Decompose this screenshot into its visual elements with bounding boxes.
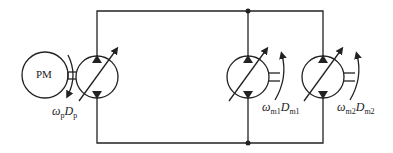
pump-rotation-arrow <box>68 55 73 95</box>
motor1-label: ωm1Dm1 <box>262 100 300 116</box>
junction-top <box>246 9 251 14</box>
pump-label: ωpDp <box>52 104 77 120</box>
junction-bottom <box>246 141 251 146</box>
motor2-label: ωm2Dm2 <box>337 100 375 116</box>
top-line <box>97 11 323 56</box>
motor1-speed-sub: m1 <box>270 107 280 116</box>
pump-disp-symbol: D <box>64 104 73 118</box>
prime-mover-label: PM <box>36 68 52 80</box>
circuit-diagram <box>0 0 393 153</box>
pump-disp-sub: p <box>73 111 77 120</box>
motor1-disp-sub: m1 <box>289 107 299 116</box>
motor2-speed-sub: m2 <box>345 107 355 116</box>
motor2-disp-sub: m2 <box>364 107 374 116</box>
